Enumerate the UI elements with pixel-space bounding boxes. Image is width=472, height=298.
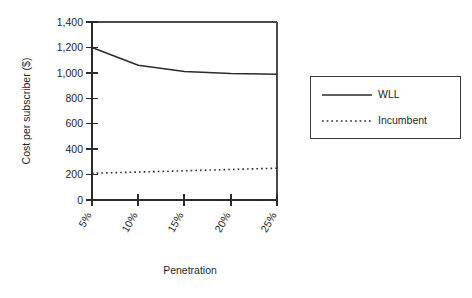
y-tick-label-1000: 1,000: [57, 67, 83, 79]
x-axis-tick-labels: 5% 10% 15% 20% 25%: [76, 210, 279, 234]
x-tick-label-25: 25%: [258, 210, 279, 234]
series-line-wll: [92, 47, 277, 74]
y-tick-label-600: 600: [65, 117, 83, 129]
data-series-group: [92, 47, 277, 173]
x-tick-label-20: 20%: [212, 210, 233, 234]
x-tick-label-5: 5%: [76, 210, 94, 229]
y-tick-label-1400: 1,400: [57, 16, 83, 28]
x-axis-title: Penetration: [163, 264, 217, 276]
legend-box: [311, 77, 461, 139]
legend-label-incumbent: Incumbent: [378, 114, 427, 126]
x-tick-label-10: 10%: [119, 210, 140, 234]
y-tick-label-200: 200: [65, 168, 83, 180]
chart-legend: WLL Incumbent: [311, 77, 461, 139]
y-tick-label-400: 400: [65, 143, 83, 155]
plot-frame: [92, 22, 277, 200]
y-tick-label-1200: 1,200: [57, 41, 83, 53]
x-tick-label-15: 15%: [165, 210, 186, 234]
line-chart-canvas: 0 200 400 600 800 1,000 1,200 1,400 5% 1…: [0, 0, 472, 298]
legend-label-wll: WLL: [378, 88, 400, 100]
y-axis-tick-labels: 0 200 400 600 800 1,000 1,200 1,400: [57, 16, 83, 206]
series-line-incumbent: [92, 168, 277, 173]
y-tick-label-800: 800: [65, 92, 83, 104]
chart-figure: 0 200 400 600 800 1,000 1,200 1,400 5% 1…: [0, 0, 472, 298]
y-axis-title: Cost per subscriber ($): [20, 58, 32, 165]
y-tick-label-0: 0: [77, 194, 83, 206]
